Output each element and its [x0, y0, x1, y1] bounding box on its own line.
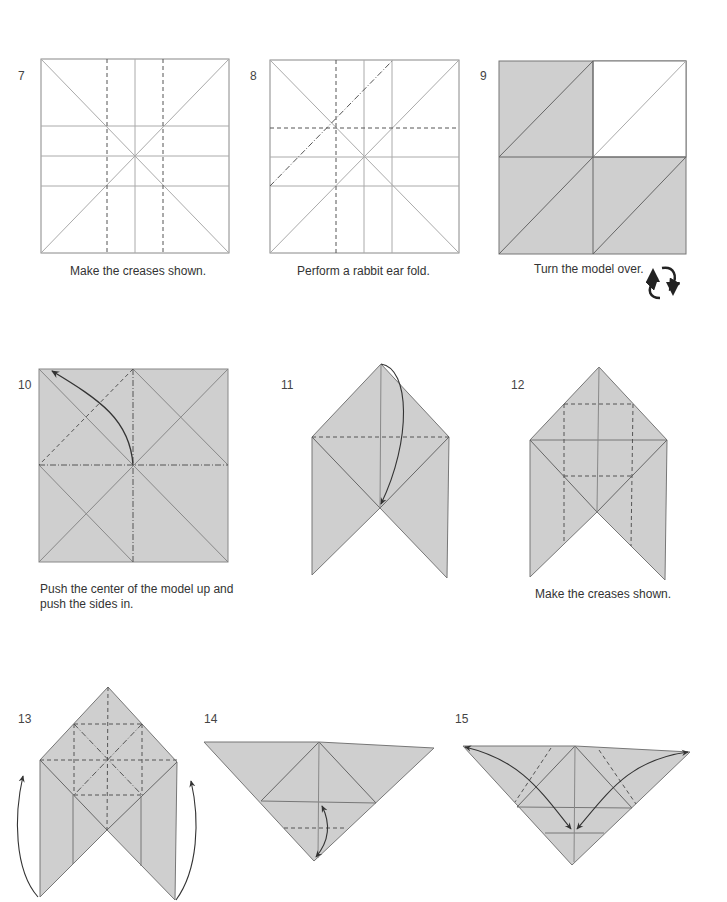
turn-over-icon: [646, 268, 680, 298]
step-8-diagram: [270, 60, 459, 253]
step-12-diagram: [530, 367, 667, 580]
step-13-diagram: [17, 687, 196, 900]
step-9-diagram: [499, 61, 686, 254]
step-7-diagram: [41, 59, 229, 253]
step-15-diagram: [463, 746, 690, 865]
step-10-diagram: [39, 369, 228, 562]
step-11-diagram: [312, 364, 449, 578]
step-14-diagram: [204, 742, 434, 861]
diagram-canvas: [0, 0, 727, 902]
